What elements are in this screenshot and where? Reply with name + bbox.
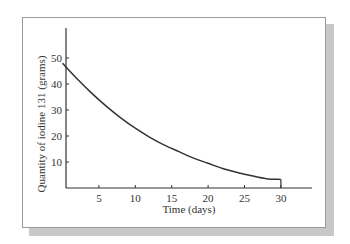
x-tick-label: 10 [130,192,142,204]
y-tick-label: 20 [51,130,63,142]
y-tick-label: 40 [51,78,63,90]
chart-svg: 510152025301020304050 Time (days) Quanti… [0,0,350,244]
x-tick-label: 25 [239,192,251,204]
axes [66,28,312,188]
x-axis-title: Time (days) [162,203,215,216]
series-layer [63,63,281,188]
x-tick-label: 5 [96,192,102,204]
y-tick-label: 10 [51,156,63,168]
y-tick-label: 50 [51,52,63,64]
series-line [63,63,281,179]
ticks: 510152025301020304050 [51,52,287,204]
x-tick-label: 30 [275,192,287,204]
y-tick-label: 30 [51,104,63,116]
y-axis-title: Quantity of iodine 131 (grams) [35,55,48,192]
